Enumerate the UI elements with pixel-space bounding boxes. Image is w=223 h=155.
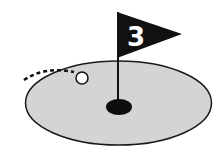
- golf-hole-illustration: 3: [0, 0, 223, 155]
- golf-ball-icon: [76, 72, 88, 84]
- flag-number: 3: [127, 22, 145, 52]
